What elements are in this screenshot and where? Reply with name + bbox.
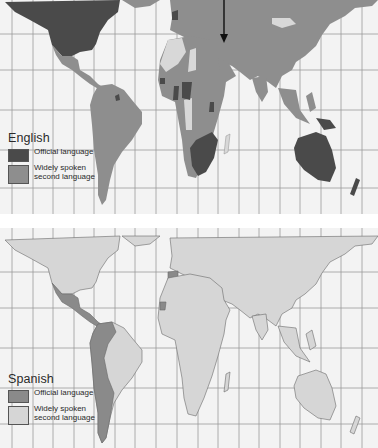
second-language-swatch (8, 165, 29, 184)
legend-label: Widely spokensecond language (34, 164, 95, 181)
legend-item-second: Widely spokensecond language (8, 405, 95, 425)
official-language-swatch (8, 149, 29, 162)
english-language-map: English Official language Widely spokens… (0, 0, 378, 214)
south-america-region (90, 84, 142, 205)
legend-item-official: Official language (8, 389, 95, 403)
spanish-legend: Spanish Official language Widely spokens… (8, 372, 95, 427)
legend-item-official: Official language (8, 148, 95, 162)
north-america-region (5, 0, 120, 56)
africa-region (158, 274, 230, 416)
english-legend: English Official language Widely spokens… (8, 131, 95, 186)
legend-title: English (8, 131, 95, 145)
north-america-region (5, 236, 120, 294)
official-language-swatch (8, 390, 29, 403)
legend-item-second: Widely spokensecond language (8, 164, 95, 184)
legend-label: Official language (34, 148, 93, 157)
legend-label: Official language (34, 389, 93, 398)
legend-title: Spanish (8, 372, 95, 386)
spanish-language-map: Spanish Official language Widely spokens… (0, 228, 378, 448)
legend-label: Widely spokensecond language (34, 405, 95, 422)
second-language-swatch (8, 406, 29, 425)
